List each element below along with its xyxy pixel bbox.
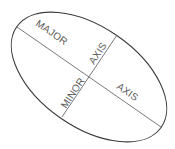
major-axis-label-axis: AXIS bbox=[115, 81, 141, 104]
minor-axis-label-minor: MINOR bbox=[59, 75, 87, 110]
ellipse-axes-diagram: MAJOR AXIS AXIS MINOR bbox=[0, 0, 175, 149]
ellipse-outline bbox=[0, 0, 175, 149]
minor-axis-label-axis: AXIS bbox=[87, 40, 109, 66]
